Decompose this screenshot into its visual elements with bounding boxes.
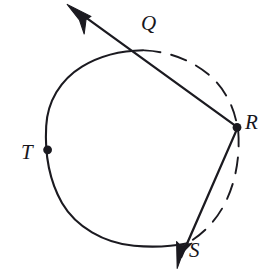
geometry-figure: Q R T S bbox=[0, 0, 269, 278]
point-label-S: S bbox=[189, 240, 200, 261]
ray-qr-shaft bbox=[76, 10, 237, 126]
solid-major-arc bbox=[46, 50, 188, 246]
dashed-arc-q-to-r bbox=[145, 50, 238, 126]
ray-qr-arrowhead bbox=[67, 4, 91, 34]
point-label-Q: Q bbox=[141, 13, 156, 34]
point-dot-R bbox=[233, 123, 242, 132]
point-label-T: T bbox=[21, 142, 33, 163]
geometry-canvas bbox=[0, 0, 269, 278]
point-dot-T bbox=[43, 145, 52, 154]
point-label-R: R bbox=[245, 112, 258, 133]
